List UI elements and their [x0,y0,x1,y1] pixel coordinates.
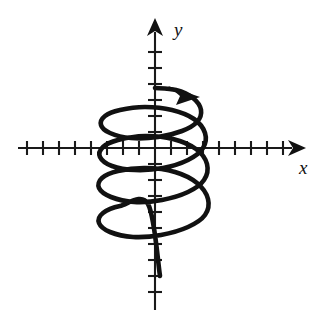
x-axis-label: x [298,157,308,178]
x-axis-group [18,140,306,156]
spiral-graph-figure: x y [0,0,324,333]
figure-container: x y [0,0,324,333]
y-axis-label: y [172,19,183,40]
